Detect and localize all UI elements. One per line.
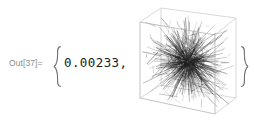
line-tangle [143,16,234,107]
list-value: 0.00233, [64,55,127,71]
output-label: Out[37]= [9,58,43,68]
output-cell[interactable]: Out[37]= 0.00233, [0,0,254,135]
graphics3d-line-tangle[interactable] [131,2,243,133]
open-brace-icon [53,46,62,87]
